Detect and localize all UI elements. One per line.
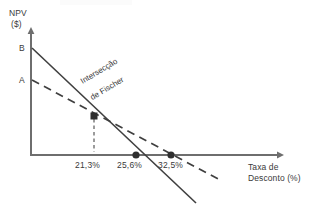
xtick-label-2: 25,6% (117, 160, 142, 171)
x-axis-title-line2: Desconto (%) (248, 173, 301, 184)
x-axis (31, 152, 284, 159)
irr-a-marker (167, 151, 174, 158)
series-a-label: A (19, 75, 25, 86)
irr-b-marker (132, 151, 139, 158)
fischer-intersection-chart: NPV ($) B A Intersecção de Fischer 21,3%… (0, 0, 317, 208)
y-axis (28, 27, 35, 156)
x-axis-title-line1: Taxa de (248, 162, 278, 173)
fischer-intersection-marker (91, 113, 98, 120)
series-b-label: B (19, 43, 25, 54)
xtick-label-1: 21,3% (75, 160, 100, 171)
y-axis-title-line1: NPV (9, 8, 27, 19)
xtick-label-3: 32,5% (158, 160, 183, 171)
y-axis-title-line2: ($) (11, 19, 22, 30)
